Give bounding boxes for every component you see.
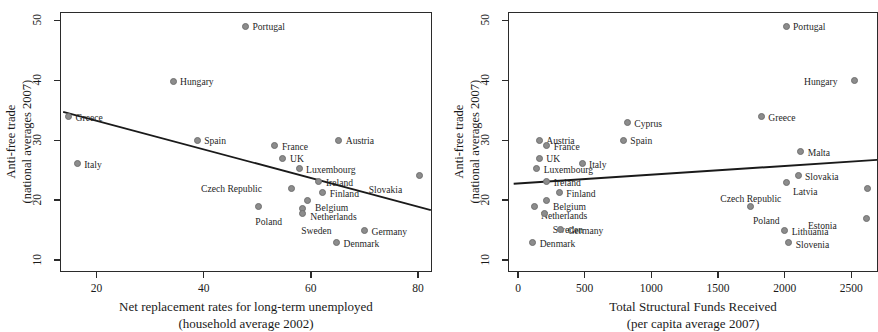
point-label-hungary: Hungary [804, 77, 838, 87]
x-ticklabel-right-1000: 1000 [626, 283, 676, 295]
data-point-finland [556, 189, 563, 196]
x-tick-right-1500 [717, 272, 718, 278]
data-point-spain [620, 137, 627, 144]
x-tick-right-2500 [851, 272, 852, 278]
point-label-slovakia: Slovakia [369, 185, 403, 195]
y-tick-left-40 [54, 80, 60, 81]
y-tick-left-30 [54, 140, 60, 141]
y-ticklabel-right-10: 10 [480, 247, 492, 273]
x-ticklabel-left-40: 40 [179, 283, 229, 295]
point-label-france: France [282, 142, 308, 152]
data-point-italy [74, 160, 81, 167]
x-axis-title-left: Net replacement rates for long-term unem… [60, 299, 432, 332]
x-ticklabel-left-80: 80 [393, 283, 443, 295]
data-point-austria [335, 137, 342, 144]
data-point-netherlands [531, 203, 538, 210]
point-label-spain: Spain [630, 136, 652, 146]
data-point-lithuania [781, 227, 788, 234]
point-label-france: France [554, 142, 580, 152]
y-tick-right-40 [502, 80, 508, 81]
x-axis-title-right: Total Structural Funds Received (per cap… [508, 299, 878, 332]
point-label-portugal: Portugal [793, 22, 826, 32]
point-label-ireland: Ireland [554, 178, 581, 188]
point-label-luxembourg: Luxembourg [544, 165, 593, 175]
data-point-belgium [304, 197, 311, 204]
data-point-slovakia [795, 172, 802, 179]
point-label-netherlands: Netherlands [310, 212, 356, 222]
point-label-poland: Poland [753, 216, 780, 226]
point-label-latvia: Latvia [793, 187, 818, 197]
x-tick-left-20 [96, 272, 97, 278]
x-ticklabel-right-2500: 2500 [826, 283, 876, 295]
point-label-denmark: Denmark [344, 239, 380, 249]
y-ticklabel-left-20: 20 [32, 187, 44, 213]
data-point-latvia [783, 179, 790, 186]
y-tick-left-50 [54, 20, 60, 21]
x-ticklabel-right-1500: 1500 [693, 283, 743, 295]
point-label-greece: Greece [768, 113, 795, 123]
point-label-germany: Germany [568, 226, 604, 236]
data-point-spain [194, 137, 201, 144]
data-point-poland [747, 203, 754, 210]
data-point-estonia [863, 215, 870, 222]
data-point-denmark [529, 239, 536, 246]
x-tick-right-500 [584, 272, 585, 278]
point-label-finland: Finland [330, 189, 359, 199]
y-tick-right-10 [502, 259, 508, 260]
point-label-czech-republic: Czech Republic [201, 184, 262, 194]
data-point-belgium [543, 197, 550, 204]
x-tick-right-0 [517, 272, 518, 278]
point-label-germany: Germany [371, 227, 407, 237]
point-label-poland: Poland [255, 217, 282, 227]
x-tick-left-80 [417, 272, 418, 278]
data-point-portugal [783, 23, 790, 30]
x-ticklabel-left-60: 60 [286, 283, 336, 295]
x-axis-title-line2-left: (household average 2002) [178, 316, 313, 331]
y-tick-left-20 [54, 199, 60, 200]
y-ticklabel-left-50: 50 [32, 7, 44, 33]
point-label-uk: UK [290, 154, 304, 164]
x-tick-right-2000 [784, 272, 785, 278]
x-axis-title-line1-right: Total Structural Funds Received [609, 299, 777, 314]
panel-right: Anti-free trade (national averages 2007)… [440, 0, 878, 329]
x-axis-title-line1-left: Net replacement rates for long-term unem… [119, 299, 373, 314]
y-ticklabel-left-30: 30 [32, 127, 44, 153]
data-point-hungary [851, 77, 858, 84]
data-point-czech-republic [288, 185, 295, 192]
point-label-slovenia: Slovenia [796, 240, 830, 250]
point-label-hungary: Hungary [180, 77, 214, 87]
data-point-austria [536, 137, 543, 144]
data-point-uk [536, 155, 543, 162]
point-label-slovakia: Slovakia [805, 172, 839, 182]
panel-left: Anti-free trade (national averages 2007)… [0, 0, 440, 329]
point-label-lithuania: Lithuania [792, 227, 829, 237]
y-tick-right-20 [502, 199, 508, 200]
data-point-hungary [170, 78, 177, 85]
x-axis-title-line2-right: (per capita average 2007) [627, 316, 759, 331]
data-point-denmark [333, 239, 340, 246]
x-ticklabel-right-2000: 2000 [760, 283, 810, 295]
point-label-denmark: Denmark [540, 239, 576, 249]
point-label-luxembourg: Luxembourg [306, 165, 355, 175]
data-point-czech-republic [864, 185, 871, 192]
data-point-germany [361, 227, 368, 234]
x-tick-left-60 [310, 272, 311, 278]
point-label-sweden: Sweden [301, 226, 331, 236]
y-tick-left-10 [54, 259, 60, 260]
y-ticklabel-left-10: 10 [32, 247, 44, 273]
point-label-finland: Finland [566, 189, 595, 199]
point-label-greece: Greece [76, 113, 103, 123]
x-tick-right-1000 [651, 272, 652, 278]
y-axis-title-line1-right: Anti-free trade [452, 105, 466, 179]
y-ticklabel-right-50: 50 [480, 7, 492, 33]
y-ticklabel-right-30: 30 [480, 127, 492, 153]
y-ticklabel-left-40: 40 [32, 67, 44, 93]
point-label-uk: UK [546, 154, 560, 164]
data-point-portugal [242, 23, 249, 30]
x-ticklabel-right-0: 0 [493, 283, 543, 295]
y-tick-right-30 [502, 140, 508, 141]
y-tick-right-50 [502, 20, 508, 21]
x-tick-left-40 [203, 272, 204, 278]
y-ticklabel-right-40: 40 [480, 67, 492, 93]
